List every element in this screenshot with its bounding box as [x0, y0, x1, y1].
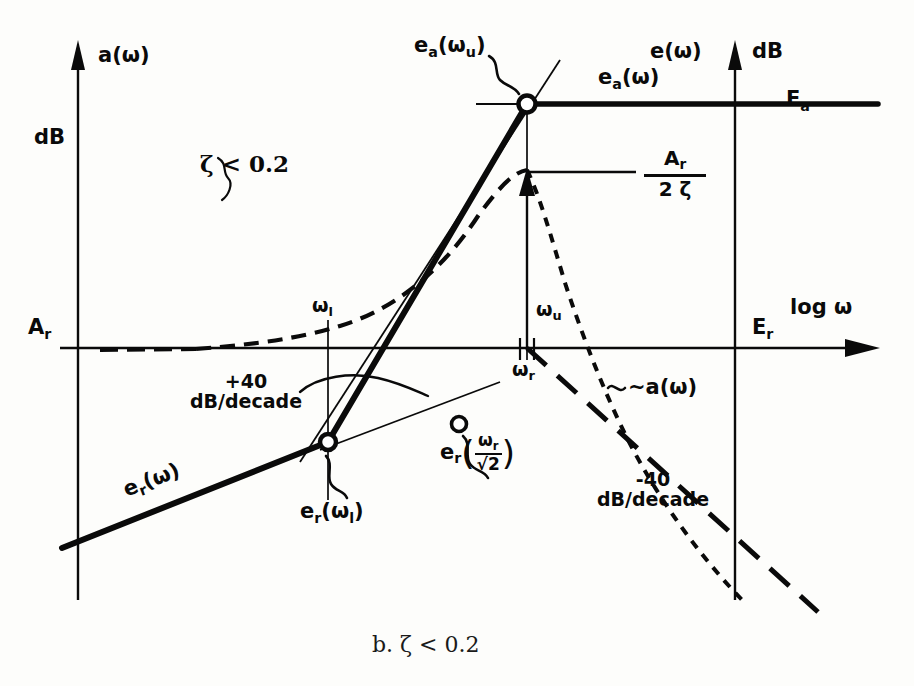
- slope-falling-label: -40 dB/decade: [578, 470, 728, 510]
- slope-rising-value: +40: [176, 372, 316, 392]
- brace-corner-lower: [326, 456, 347, 498]
- figure-page: a(ω) dB ζ < 0.2 Ar Er log ω e(ω) dB Ea e…: [0, 0, 914, 686]
- half-power-num: ωr: [475, 432, 502, 452]
- er-baseline-text: E: [752, 315, 766, 339]
- ea-level-sub: a: [800, 98, 810, 114]
- slope-rising-label: +40 dB/decade: [176, 372, 316, 412]
- ea-curve-sub: a: [612, 76, 622, 92]
- peak-magnitude-fraction: Ar 2 ζ: [644, 148, 706, 200]
- ea-level-text: E: [786, 87, 800, 111]
- omega-u-sub: u: [553, 308, 562, 323]
- half-power-label: er(ωr√2): [440, 432, 515, 474]
- omega-l-text: ω: [312, 294, 329, 316]
- horizontal-axis-label: log ω: [790, 296, 852, 318]
- right-axis-unit: dB: [752, 40, 783, 62]
- peak-num-sub: r: [679, 156, 686, 172]
- half-power-num-sub: r: [493, 439, 499, 453]
- left-axis-label: a(ω): [98, 44, 150, 66]
- peak-num-text: A: [664, 146, 679, 170]
- half-power-node: [452, 417, 467, 432]
- omega-r-label: ωr: [512, 360, 535, 383]
- omega-u-label: ωu: [536, 300, 562, 323]
- actual-response-text: ~a(ω): [628, 375, 697, 399]
- omega-r-text: ω: [512, 358, 529, 380]
- half-power-text: e: [440, 440, 454, 464]
- ar-baseline-sub: r: [44, 326, 51, 342]
- ar-baseline-text: A: [28, 315, 44, 339]
- corner-upper-arg-sub: u: [466, 44, 476, 60]
- omega-r-sub: r: [529, 368, 535, 383]
- corner-node-upper: [519, 96, 536, 113]
- right-vertical-axis: [728, 40, 742, 600]
- half-power-num-text: ω: [478, 430, 493, 450]
- er-baseline-label: Er: [752, 316, 773, 342]
- brace-corner-upper: [489, 56, 519, 94]
- corner-upper-arg: (ω: [438, 33, 466, 57]
- omega-l-sub: l: [329, 304, 333, 319]
- omega-u-text: ω: [536, 298, 553, 320]
- corner-upper-text: e: [414, 33, 428, 57]
- half-power-fraction: ωr√2: [475, 432, 502, 474]
- half-power-paren-open: (: [461, 433, 474, 473]
- actual-response-label: ~a(ω): [628, 376, 697, 398]
- damping-note: ζ < 0.2: [200, 152, 289, 176]
- corner-upper-label: ea(ωu): [414, 34, 486, 60]
- corner-lower-arg-close: ): [354, 499, 364, 523]
- peak-fraction-numerator: Ar: [644, 148, 706, 173]
- ea-curve-arg: (ω): [622, 65, 659, 89]
- er-baseline-sub: r: [766, 326, 773, 342]
- actual-response-rising: [196, 170, 527, 349]
- corner-upper-arg-close: ): [476, 33, 486, 57]
- left-vertical-axis: [71, 40, 85, 600]
- peak-fraction-denominator: 2 ζ: [644, 178, 706, 200]
- corner-lower-text: e: [300, 499, 314, 523]
- half-power-den: √2: [475, 456, 502, 473]
- ea-level-label: Ea: [786, 88, 810, 114]
- tilde-mark-actual-response: [608, 386, 625, 390]
- corner-upper-sub: a: [428, 44, 438, 60]
- ar-baseline-label: Ar: [28, 316, 51, 342]
- corner-lower-arg: (ω: [321, 499, 349, 523]
- slope-rising-unit: dB/decade: [176, 392, 316, 412]
- bode-plot-svg: [0, 0, 914, 686]
- right-axis-label: e(ω): [650, 40, 702, 62]
- slope-falling-unit: dB/decade: [578, 490, 728, 510]
- left-axis-unit: dB: [34, 126, 65, 148]
- corner-node-lower: [320, 434, 336, 450]
- half-power-paren-close: ): [502, 433, 515, 473]
- ea-curve-label: ea(ω): [598, 66, 659, 92]
- slope-falling-value: -40: [578, 470, 728, 490]
- half-power-construction-line: [300, 60, 560, 462]
- figure-caption: b. ζ < 0.2: [372, 632, 479, 657]
- corner-lower-label: er(ωl): [300, 500, 364, 526]
- omega-l-label: ωl: [312, 296, 333, 319]
- ea-curve-text: e: [598, 65, 612, 89]
